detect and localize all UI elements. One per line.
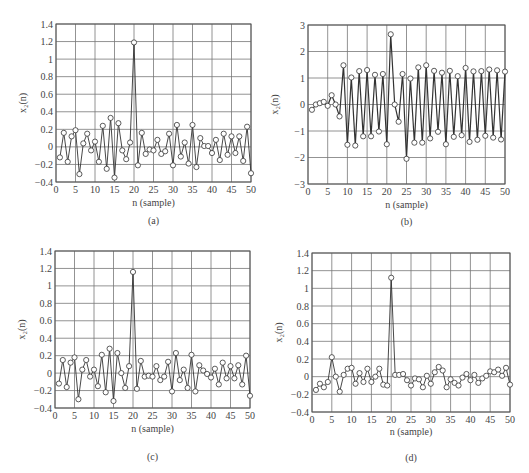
data-point-marker xyxy=(115,350,120,355)
data-point-marker xyxy=(181,367,186,372)
data-point-marker xyxy=(60,357,65,362)
data-point-marker xyxy=(128,140,133,145)
data-point-marker xyxy=(193,389,198,394)
data-point-marker xyxy=(81,141,86,146)
y-tick-label: 1.4 xyxy=(40,246,53,257)
y-tick-label: 0 xyxy=(304,371,309,382)
data-point-marker xyxy=(185,385,190,390)
data-point-marker xyxy=(420,140,425,145)
data-point-marker xyxy=(236,363,241,368)
data-point-marker xyxy=(353,381,358,386)
y-tick-label: 0.6 xyxy=(297,318,310,329)
data-point-marker xyxy=(499,373,504,378)
y-tick-label: 0.8 xyxy=(41,71,54,82)
x-tick-labels: 05101520253035404550 xyxy=(310,414,516,425)
x-tick-label: 40 xyxy=(465,414,475,425)
data-point-marker xyxy=(349,75,354,80)
y-tick-label: 1 xyxy=(47,280,52,291)
y-tick-label: 1.2 xyxy=(41,36,54,47)
data-point-marker xyxy=(208,375,213,380)
data-point-marker xyxy=(325,103,330,108)
data-point-marker xyxy=(88,374,93,379)
data-point-marker xyxy=(321,99,326,104)
x-tick-label: 15 xyxy=(109,410,119,421)
x-axis-label: n (sample) xyxy=(132,197,175,209)
data-point-marker xyxy=(361,379,366,384)
x-tick-label: 20 xyxy=(386,414,396,425)
data-point-marker xyxy=(376,129,381,134)
data-point-marker xyxy=(85,131,90,136)
x-tick-label: 15 xyxy=(110,184,120,195)
chart-panel-b: 05101520253035404550−3−2−10123n (sample)… xyxy=(265,0,529,236)
x-tick-label: 40 xyxy=(207,184,217,195)
data-point-marker xyxy=(345,142,350,147)
chart-svg: 05101520253035404550−0.4−0.200.20.40.60.… xyxy=(0,0,265,236)
panel-label: (a) xyxy=(148,215,159,227)
data-point-marker xyxy=(72,355,77,360)
x-axis-label: n (sample) xyxy=(385,199,428,211)
x-tick-label: 25 xyxy=(148,410,158,421)
x-tick-label: 50 xyxy=(246,184,256,195)
data-point-marker xyxy=(119,371,124,376)
data-point-marker xyxy=(502,69,507,74)
x-tick-label: 40 xyxy=(206,410,216,421)
data-point-marker xyxy=(333,374,338,379)
x-tick-label: 35 xyxy=(441,186,451,197)
data-point-marker xyxy=(155,137,160,142)
data-point-marker xyxy=(228,364,233,369)
data-point-marker xyxy=(139,130,144,135)
data-point-marker xyxy=(447,68,452,73)
data-point-marker xyxy=(333,102,338,107)
data-point-marker xyxy=(80,367,85,372)
data-point-marker xyxy=(431,68,436,73)
data-point-marker xyxy=(65,159,70,164)
data-point-marker xyxy=(388,32,393,37)
data-point-marker xyxy=(241,158,246,163)
data-point-marker xyxy=(111,398,116,403)
x-tick-label: 35 xyxy=(446,414,456,425)
data-point-marker xyxy=(467,139,472,144)
data-point-marker xyxy=(174,122,179,127)
y-tick-label: −0.2 xyxy=(34,385,52,396)
y-tick-label: 1 xyxy=(304,283,309,294)
data-point-marker xyxy=(368,134,373,139)
x-tick-label: 45 xyxy=(226,410,236,421)
data-point-marker xyxy=(189,352,194,357)
data-point-marker xyxy=(57,155,62,160)
data-point-marker xyxy=(337,114,342,119)
data-point-marker xyxy=(459,133,464,138)
data-point-marker xyxy=(389,275,394,280)
panel-label: (c) xyxy=(147,451,158,463)
data-point-marker xyxy=(108,115,113,120)
y-tick-label: −1 xyxy=(294,126,305,137)
y-tick-label: 1 xyxy=(300,73,305,84)
data-point-marker xyxy=(468,378,473,383)
y-tick-label: 0.2 xyxy=(40,350,53,361)
data-point-marker xyxy=(353,143,358,148)
data-point-marker xyxy=(69,134,74,139)
data-point-marker xyxy=(443,142,448,147)
data-point-marker xyxy=(475,137,480,142)
data-point-marker xyxy=(116,121,121,126)
data-point-marker xyxy=(392,102,397,107)
chart-svg: 05101520253035404550−0.4−0.200.20.40.60.… xyxy=(265,236,529,473)
data-point-marker xyxy=(373,374,378,379)
data-point-marker xyxy=(178,154,183,159)
data-point-marker xyxy=(240,382,245,387)
x-tick-label: 20 xyxy=(382,186,392,197)
x-tick-label: 50 xyxy=(500,186,510,197)
data-point-marker xyxy=(92,139,97,144)
data-point-marker xyxy=(170,163,175,168)
chart-panel-c: 05101520253035404550−0.4−0.200.20.40.60.… xyxy=(0,236,265,473)
data-point-marker xyxy=(206,143,211,148)
data-point-marker xyxy=(444,385,449,390)
data-point-marker xyxy=(123,385,128,390)
y-tick-label: 1 xyxy=(48,54,53,65)
data-point-marker xyxy=(213,137,218,142)
data-point-marker xyxy=(68,360,73,365)
data-point-marker xyxy=(495,68,500,73)
data-point-marker xyxy=(408,76,413,81)
data-point-marker xyxy=(325,379,330,384)
data-point-marker xyxy=(154,364,159,369)
y-tick-label: −2 xyxy=(294,152,305,163)
